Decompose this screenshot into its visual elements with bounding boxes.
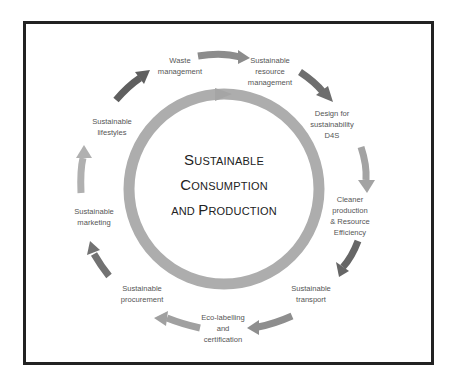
arrow-waste-to-resource-icon — [198, 50, 250, 64]
node-waste-management: Waste management — [158, 55, 202, 77]
arrow-transport-to-ecolabel-icon — [247, 316, 292, 335]
arrow-lifestyles-to-waste-icon — [116, 70, 150, 100]
node-cleaner-production: Cleaner production & Resource Efficiency — [330, 194, 370, 238]
center-title-line2: CONSUMPTION — [171, 173, 277, 198]
node-design-for-sustainability: Design for sustainability D4S — [310, 108, 353, 141]
center-title: SUSTAINABLE CONSUMPTION AND PRODUCTION — [171, 148, 277, 223]
node-sustainable-procurement: Sustainable procurement — [121, 283, 164, 305]
arrow-resource-to-design-icon — [300, 72, 333, 102]
node-sustainable-transport: Sustainable transport — [291, 283, 331, 305]
node-eco-labelling: Eco-labelling and certification — [201, 312, 244, 345]
arrow-marketing-to-lifestyles-icon — [76, 145, 92, 193]
node-sustainable-marketing: Sustainable marketing — [74, 206, 114, 228]
arrow-procurement-to-marketing-icon — [87, 241, 109, 276]
center-title-line3: AND PRODUCTION — [171, 198, 277, 223]
arrow-design-to-cleaner-icon — [358, 147, 375, 193]
center-title-line1: SUSTAINABLE — [171, 148, 277, 173]
node-sustainable-resource-management: Sustainable resource management — [248, 55, 292, 88]
node-sustainable-lifestyles: Sustainable lifestyles — [92, 116, 132, 138]
arrow-cleaner-to-transport-icon — [336, 241, 358, 277]
arrow-ecolabel-to-procurement-icon — [154, 311, 200, 328]
